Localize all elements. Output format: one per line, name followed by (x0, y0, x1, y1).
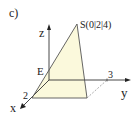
z-axis-label: z (39, 27, 44, 39)
pyramid-diagram (0, 0, 139, 117)
part-label: c) (9, 7, 18, 19)
z-axis-arrow-icon (47, 24, 51, 30)
x-axis-label: x (10, 102, 16, 114)
point-e-label: E (37, 66, 44, 77)
apex-label: S(0|2|4) (80, 20, 111, 30)
x-tick-label: 2 (23, 91, 28, 101)
y-axis-label: y (121, 86, 128, 99)
y-tick-label: 3 (108, 70, 113, 80)
y-axis-arrow-icon (125, 78, 131, 82)
dashed-guide (87, 80, 107, 98)
